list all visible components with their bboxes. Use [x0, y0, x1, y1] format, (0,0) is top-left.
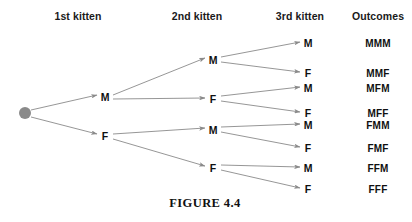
node-3rd-kitten-4: F: [305, 107, 311, 119]
column-header-outcomes: Outcomes: [352, 10, 404, 22]
node-3rd-kitten-6: F: [305, 142, 311, 154]
probability-tree-figure: 1st kitten 2nd kitten 3rd kitten Outcome…: [0, 0, 412, 222]
outcome-2: MMF: [366, 68, 389, 79]
edge-2nd-M-b-to-3rd-F: [221, 132, 300, 147]
edge-2nd-F-a-to-3rd-F: [221, 101, 300, 112]
node-3rd-kitten-7: M: [304, 162, 313, 174]
node-2nd-kitten-F-a: F: [210, 93, 216, 105]
node-3rd-kitten-1: M: [304, 37, 313, 49]
edge-1st-F-to-2nd-M: [113, 128, 205, 134]
column-header-3rd-kitten: 3rd kitten: [276, 10, 324, 22]
outcome-8: FFF: [369, 184, 388, 195]
column-header-2nd-kitten: 2nd kitten: [172, 10, 223, 22]
node-1st-kitten-M: M: [101, 91, 110, 103]
outcome-7: FFM: [367, 163, 388, 174]
edge-2nd-M-a-to-3rd-F: [221, 62, 300, 72]
tree-edges-layer: [0, 0, 412, 222]
edge-1st-F-to-2nd-F: [113, 139, 205, 166]
node-2nd-kitten-F-b: F: [210, 162, 216, 174]
node-3rd-kitten-2: F: [305, 67, 311, 79]
edge-2nd-F-b-to-3rd-M: [221, 165, 300, 167]
outcome-6: FMF: [367, 143, 388, 154]
outcome-5: FMM: [366, 120, 389, 131]
figure-caption: FIGURE 4.4: [169, 196, 240, 211]
node-1st-kitten-F: F: [102, 130, 108, 142]
edge-root-to-1st-F: [31, 117, 97, 134]
column-header-1st-kitten: 1st kitten: [54, 10, 101, 22]
edge-2nd-F-a-to-3rd-M: [221, 87, 300, 96]
edge-1st-M-to-2nd-M: [113, 58, 205, 95]
outcome-4: MFF: [367, 108, 388, 119]
node-3rd-kitten-5: M: [304, 119, 313, 131]
edge-2nd-M-a-to-3rd-M: [221, 42, 300, 57]
edge-2nd-M-b-to-3rd-M: [221, 124, 300, 127]
edge-1st-M-to-2nd-F: [113, 98, 205, 99]
outcome-3: MFM: [366, 83, 389, 94]
outcome-1: MMM: [365, 38, 391, 49]
edge-root-to-1st-M: [31, 95, 97, 110]
start-node: [19, 107, 31, 119]
node-2nd-kitten-M-b: M: [209, 124, 218, 136]
node-3rd-kitten-8: F: [305, 183, 311, 195]
node-2nd-kitten-M-a: M: [209, 54, 218, 66]
node-3rd-kitten-3: M: [304, 82, 313, 94]
edge-2nd-F-b-to-3rd-F: [221, 170, 300, 188]
